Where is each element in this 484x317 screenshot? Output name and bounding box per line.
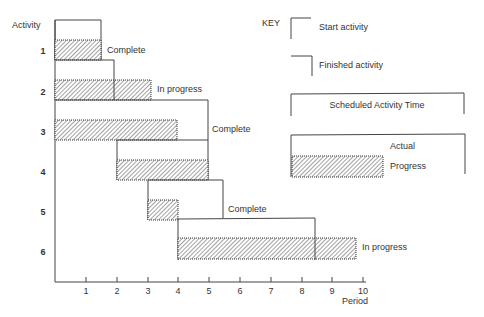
finished-activity-icon [291,56,312,76]
svg-text:2: 2 [40,87,45,97]
progress-swatch [292,156,383,177]
svg-text:8: 8 [299,286,304,296]
activity-5: Complete [148,180,267,220]
svg-text:5: 5 [206,286,211,296]
y-axis-label: Activity [12,20,41,30]
start-activity-icon [291,18,311,39]
activity-3: Complete [55,100,251,140]
svg-text:Scheduled Activity Time: Scheduled Activity Time [329,100,424,110]
svg-text:Finished activity: Finished activity [319,60,384,70]
activity-labels: 1 2 3 4 5 6 [40,46,45,257]
svg-text:3: 3 [40,127,45,137]
svg-text:Progress: Progress [390,161,427,171]
svg-text:Complete: Complete [212,124,251,134]
svg-text:In progress: In progress [157,84,203,94]
activity-6: In progress [178,218,408,260]
legend-title: KEY [262,18,280,28]
svg-text:2: 2 [114,286,119,296]
svg-text:6: 6 [237,286,242,296]
activity-4 [117,140,208,180]
svg-text:In progress: In progress [362,242,408,252]
x-axis-label: Period [342,296,368,306]
svg-text:9: 9 [329,286,334,296]
svg-text:6: 6 [40,247,45,257]
x-tick-labels: 1 2 3 4 5 6 7 8 9 10 [83,286,368,296]
svg-text:1: 1 [83,286,88,296]
svg-text:7: 7 [268,286,273,296]
gantt-chart: 1 2 3 4 5 6 7 8 9 10 Period Activity 1 2… [0,0,484,317]
svg-text:Complete: Complete [228,204,267,214]
legend: KEY Start activity Finished activity Sch… [262,18,465,177]
svg-text:Start activity: Start activity [319,22,369,32]
activity-1: Complete [55,20,146,60]
svg-text:4: 4 [175,286,180,296]
svg-text:1: 1 [40,46,45,56]
svg-text:Complete: Complete [107,45,146,55]
svg-text:4: 4 [40,167,45,177]
svg-text:10: 10 [358,286,368,296]
svg-text:3: 3 [145,286,150,296]
x-ticks [86,277,363,282]
svg-text:5: 5 [40,207,45,217]
svg-text:Actual: Actual [390,141,415,151]
activity-2: In progress [55,60,203,100]
